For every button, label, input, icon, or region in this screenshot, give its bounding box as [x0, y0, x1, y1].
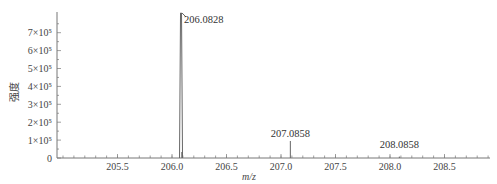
x-tick-label: 208.5 [433, 161, 456, 172]
y-tick-label: 6×10⁵ [28, 45, 52, 56]
y-axis-ticks: 01×10⁵2×10⁵3×10⁵4×10⁵5×10⁵6×10⁵7×10⁵ [28, 24, 61, 164]
y-tick-label: 2×10⁵ [28, 117, 52, 128]
y-tick-label: 4×10⁵ [28, 81, 52, 92]
spectrum-peak [180, 13, 183, 158]
x-tick-label: 208.0 [379, 161, 402, 172]
peak-label: 207.0858 [271, 128, 310, 139]
y-tick-label: 0 [47, 153, 52, 164]
x-axis-label: m/z [242, 171, 256, 182]
peak-label: 206.0828 [184, 14, 223, 25]
x-tick-label: 207.5 [324, 161, 347, 172]
y-tick-label: 5×10⁵ [28, 63, 52, 74]
x-tick-label: 206.0 [161, 161, 184, 172]
x-axis-ticks: 205.5206.0206.5207.0207.5208.0208.5 [63, 154, 488, 172]
y-tick-label: 7×10⁵ [28, 27, 52, 38]
mass-spectrum-chart: 01×10⁵2×10⁵3×10⁵4×10⁵5×10⁵6×10⁵7×10⁵ 205… [0, 0, 497, 184]
spectrum-peaks: 206.0828207.0858208.0858 [180, 13, 420, 158]
x-tick-label: 206.5 [215, 161, 238, 172]
x-tick-label: 205.5 [106, 161, 129, 172]
y-tick-label: 1×10⁵ [28, 135, 52, 146]
y-axis-label: 强度 [8, 82, 20, 102]
y-tick-label: 3×10⁵ [28, 99, 52, 110]
x-tick-label: 207.0 [270, 161, 293, 172]
peak-label: 208.0858 [380, 139, 419, 150]
